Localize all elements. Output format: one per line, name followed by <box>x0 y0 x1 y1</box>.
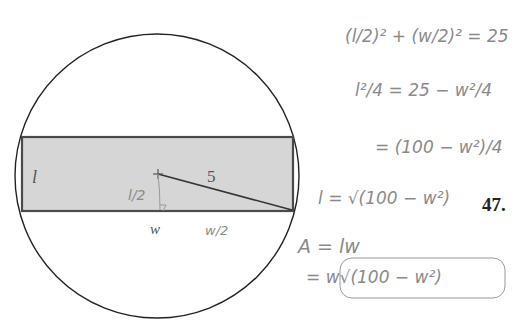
label-half-width: w/2 <box>205 223 228 238</box>
label-radius: 5 <box>207 167 216 186</box>
equation-l-squared: l²/4 = 25 − w²/4 <box>355 80 492 100</box>
equation-area: A = lw <box>296 235 360 257</box>
label-left-side: l <box>32 167 37 187</box>
equation-l: l = √(100 − w²) <box>318 188 450 208</box>
equation-combined: = (100 − w²)/4 <box>375 137 503 157</box>
equation-pythagorean: (l/2)² + (w/2)² = 25 <box>345 26 509 46</box>
label-width: w <box>150 221 160 237</box>
equation-area-result: = w√(100 − w²) <box>306 267 442 287</box>
problem-number: 47. <box>482 194 506 215</box>
label-half-length: l/2 <box>128 187 146 203</box>
